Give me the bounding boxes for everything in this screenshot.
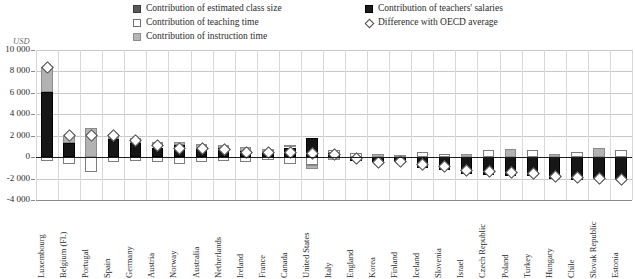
y-axis-tick-mark (31, 93, 35, 94)
bar-column[interactable] (124, 50, 146, 200)
y-axis-tick-label: -2 000 (0, 173, 30, 183)
y-axis-tick-label: 4 000 (0, 108, 30, 118)
bars-layer (36, 50, 632, 200)
y-axis-tick-label: 2 000 (0, 130, 30, 140)
bar-column[interactable] (522, 50, 544, 200)
bar-column[interactable] (301, 50, 323, 200)
legend-swatch-salaries-icon (365, 5, 373, 13)
bar-segment-teaching-time (85, 157, 96, 172)
x-axis-label: Korea (367, 202, 389, 278)
bar-column[interactable] (191, 50, 213, 200)
x-axis-label: Israel (455, 202, 477, 278)
legend-label-salaries: Contribution of teachers' salaries (378, 3, 503, 14)
bar-column[interactable] (257, 50, 279, 200)
x-axis-label: Austria (146, 202, 168, 278)
bar-column[interactable] (455, 50, 477, 200)
x-axis-label: Canada (279, 202, 301, 278)
legend-label-instruction-time: Contribution of instruction time (146, 31, 267, 42)
bar-column[interactable] (235, 50, 257, 200)
legend-swatch-teaching-time-icon (133, 19, 141, 27)
y-axis-tick-mark (31, 157, 35, 158)
x-axis-label: Ireland (235, 202, 257, 278)
y-axis-tick-mark (31, 136, 35, 137)
y-axis-tick-label: 8 000 (0, 65, 30, 75)
bar-column[interactable] (36, 50, 58, 200)
x-axis-label: Turkey (522, 202, 544, 278)
y-axis-tick-mark (31, 50, 35, 51)
bar-segment-teaching-time (615, 150, 626, 157)
x-axis-label: Germany (124, 202, 146, 278)
bar-column[interactable] (146, 50, 168, 200)
x-axis-label: Iceland (411, 202, 433, 278)
x-axis-labels: LuxembourgBelgium (Fl.)PortugalSpainGerm… (36, 202, 632, 279)
bar-column[interactable] (80, 50, 102, 200)
bar-column[interactable] (102, 50, 124, 200)
x-axis-label: Chile (566, 202, 588, 278)
legend-item-class-size: Contribution of estimated class size (133, 2, 282, 15)
x-axis-label: Luxembourg (36, 202, 58, 278)
y-axis-tick-mark (31, 200, 35, 201)
y-axis-tick-label: 0 (0, 151, 30, 161)
bar-column[interactable] (477, 50, 499, 200)
legend-swatch-instruction-time-icon (133, 33, 141, 41)
bar-column[interactable] (610, 50, 632, 200)
bar-segment-instruction-time (306, 165, 317, 169)
bar-column[interactable] (168, 50, 190, 200)
legend-swatch-class-size-icon (133, 5, 141, 13)
bar-column[interactable] (323, 50, 345, 200)
x-axis-line (36, 200, 632, 201)
legend-item-instruction-time: Contribution of instruction time (133, 30, 282, 43)
x-axis-label: Estonia (610, 202, 632, 278)
bar-segment-salaries (63, 143, 74, 157)
bar-column[interactable] (411, 50, 433, 200)
legend-item-teaching-time: Contribution of teaching time (133, 16, 282, 29)
x-axis-label: Australia (191, 202, 213, 278)
x-axis-label: Spain (102, 202, 124, 278)
chart-figure: Contribution of estimated class size Con… (0, 0, 635, 279)
x-axis-label: Norway (168, 202, 190, 278)
bar-column[interactable] (500, 50, 522, 200)
legend-item-salaries: Contribution of teachers' salaries (365, 2, 503, 15)
y-axis-tick-mark (31, 179, 35, 180)
bar-column[interactable] (58, 50, 80, 200)
y-axis-tick-mark (31, 114, 35, 115)
bar-column[interactable] (544, 50, 566, 200)
bar-column[interactable] (345, 50, 367, 200)
x-axis-label: Finland (389, 202, 411, 278)
chart-legend: Contribution of estimated class size Con… (133, 2, 593, 42)
bar-segment-teaching-time (483, 150, 494, 158)
legend-item-oecd-difference: Difference with OECD average (365, 16, 503, 29)
x-axis-label: Slovak Republic (588, 202, 610, 278)
y-axis-tick-label: -4 000 (0, 194, 30, 204)
bar-column[interactable] (367, 50, 389, 200)
x-axis-label: Portugal (80, 202, 102, 278)
bar-segment-instruction-time (593, 148, 604, 158)
bar-column[interactable] (433, 50, 455, 200)
x-axis-label: Hungary (544, 202, 566, 278)
bar-segment-teaching-time (63, 157, 74, 164)
bar-column[interactable] (389, 50, 411, 200)
x-axis-label: Poland (500, 202, 522, 278)
x-axis-label: Netherlands (213, 202, 235, 278)
y-axis-tick-mark (31, 71, 35, 72)
legend-label-class-size: Contribution of estimated class size (146, 3, 282, 14)
bar-column[interactable] (213, 50, 235, 200)
y-axis-tick-label: 10 000 (0, 44, 30, 54)
legend-swatch-diamond-icon (365, 19, 373, 27)
bar-column[interactable] (279, 50, 301, 200)
bar-segment-teaching-time (527, 150, 538, 158)
x-axis-label: Czech Republic (477, 202, 499, 278)
legend-column-left: Contribution of estimated class size Con… (133, 2, 282, 44)
zero-line (36, 157, 632, 158)
bar-column[interactable] (566, 50, 588, 200)
bar-segment-instruction-time (505, 149, 516, 157)
legend-label-teaching-time: Contribution of teaching time (146, 17, 259, 28)
x-axis-label: United States (301, 202, 323, 278)
bar-column[interactable] (588, 50, 610, 200)
y-axis-tick-label: 6 000 (0, 87, 30, 97)
x-axis-label: Belgium (Fl.) (58, 202, 80, 278)
bar-segment-salaries (41, 92, 52, 157)
x-axis-label: Italy (323, 202, 345, 278)
x-axis-label: Slovenia (433, 202, 455, 278)
legend-label-oecd-difference: Difference with OECD average (378, 17, 498, 28)
